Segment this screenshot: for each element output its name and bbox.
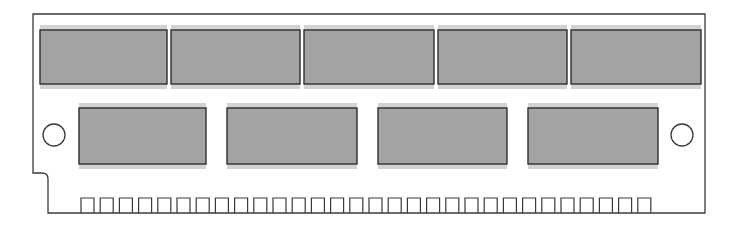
lower-chip-1 bbox=[79, 103, 206, 169]
connector-pin bbox=[580, 198, 593, 213]
connector-pin bbox=[235, 198, 248, 213]
connector-pin bbox=[388, 198, 401, 213]
connector-pin bbox=[638, 198, 651, 213]
upper-chip-2 bbox=[171, 25, 300, 89]
connector-pin bbox=[407, 198, 420, 213]
chip-body bbox=[571, 30, 701, 84]
chip-body bbox=[528, 108, 658, 164]
chip-body bbox=[378, 108, 507, 164]
connector-pin bbox=[331, 198, 344, 213]
upper-chip-5 bbox=[571, 25, 701, 89]
chip-body bbox=[438, 30, 567, 84]
connector-pin bbox=[196, 198, 209, 213]
connector-pin bbox=[446, 198, 459, 213]
connector-pin bbox=[465, 198, 478, 213]
connector-pin bbox=[215, 198, 228, 213]
memory-module-drawing bbox=[0, 0, 733, 236]
lower-chip-4 bbox=[528, 103, 658, 169]
connector-pin bbox=[254, 198, 267, 213]
connector-pin bbox=[350, 198, 363, 213]
lower-chip-3 bbox=[378, 103, 507, 169]
upper-chip-4 bbox=[438, 25, 567, 89]
connector-pin bbox=[158, 198, 171, 213]
edge-connector-pins bbox=[81, 198, 651, 213]
connector-pin bbox=[523, 198, 536, 213]
chip-body bbox=[79, 108, 206, 164]
memory-module-diagram bbox=[0, 0, 733, 236]
chip-body bbox=[227, 108, 357, 164]
connector-pin bbox=[119, 198, 132, 213]
connector-pin bbox=[484, 198, 497, 213]
left-mounting-hole bbox=[43, 124, 65, 146]
connector-pin bbox=[292, 198, 305, 213]
connector-pin bbox=[619, 198, 632, 213]
right-mounting-hole bbox=[671, 124, 693, 146]
connector-pin bbox=[311, 198, 324, 213]
connector-pin bbox=[599, 198, 612, 213]
connector-pin bbox=[427, 198, 440, 213]
upper-chip-3 bbox=[304, 25, 434, 89]
upper-chip-1 bbox=[40, 25, 167, 89]
connector-pin bbox=[139, 198, 152, 213]
chip-body bbox=[40, 30, 167, 84]
connector-pin bbox=[369, 198, 382, 213]
chip-body bbox=[304, 30, 434, 84]
chip-body bbox=[171, 30, 300, 84]
connector-pin bbox=[561, 198, 574, 213]
lower-chip-2 bbox=[227, 103, 357, 169]
connector-pin bbox=[81, 198, 94, 213]
connector-pin bbox=[177, 198, 190, 213]
connector-pin bbox=[542, 198, 555, 213]
connector-pin bbox=[273, 198, 286, 213]
connector-pin bbox=[503, 198, 516, 213]
chip-layer bbox=[40, 25, 701, 169]
connector-pin bbox=[100, 198, 113, 213]
